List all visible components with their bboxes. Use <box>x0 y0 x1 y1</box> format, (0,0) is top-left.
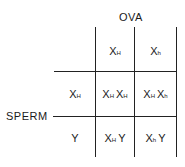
sperm-allele-2: Y <box>60 132 90 144</box>
genotype-cell-2-1: XHY <box>96 132 134 144</box>
ova-label: OVA <box>119 11 143 23</box>
grid-line-h1 <box>54 71 177 72</box>
grid-line-h2 <box>53 116 177 117</box>
genotype-cell-2-2: XhY <box>135 132 176 144</box>
sperm-allele-1: XH <box>60 88 90 100</box>
grid-line-v3 <box>176 27 177 157</box>
ova-allele-1: XH <box>96 45 134 57</box>
sperm-label: SPERM <box>6 110 48 122</box>
genotype-cell-1-2: XHXh <box>135 88 176 100</box>
genotype-cell-1-1: XHXH <box>96 88 134 100</box>
ova-allele-2: Xh <box>135 45 176 57</box>
